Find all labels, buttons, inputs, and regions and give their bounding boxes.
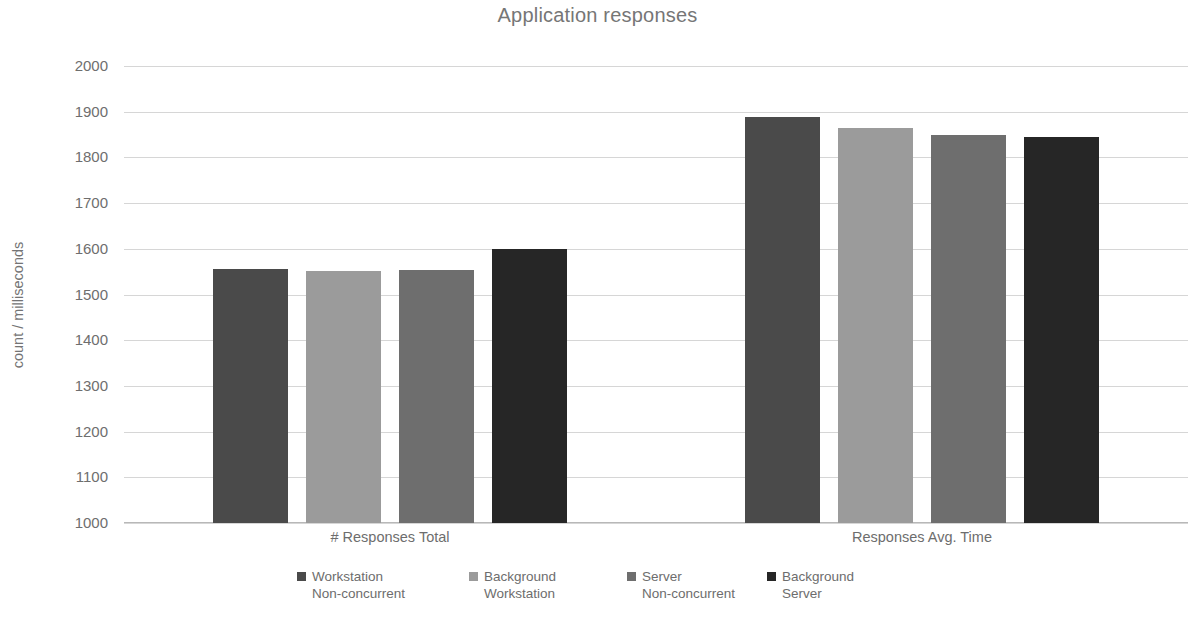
bar (1024, 137, 1099, 523)
legend-label: WorkstationNon-concurrent (312, 568, 405, 602)
y-axis-tick-label: 1300 (48, 377, 108, 394)
y-axis-tick-labels: 2000190018001700160015001400130012001100… (46, 66, 108, 523)
legend-item[interactable]: ServerNon-concurrent (627, 568, 735, 602)
legend-label-line-1: Server (642, 569, 682, 584)
bar (399, 270, 474, 523)
y-axis-tick-label: 1200 (48, 423, 108, 440)
bar (213, 269, 288, 523)
x-axis-category-label: # Responses Total (124, 529, 656, 545)
legend-item[interactable]: BackgroundServer (767, 568, 854, 602)
legend-label-line-2: Non-concurrent (312, 585, 405, 602)
chart-legend: WorkstationNon-concurrentBackgroundWorks… (297, 568, 917, 614)
x-axis-category-label: Responses Avg. Time (656, 529, 1188, 545)
legend-label-line-1: Background (484, 569, 556, 584)
gridline (124, 523, 1188, 524)
y-axis-tick-label: 1800 (48, 148, 108, 165)
bar (838, 128, 913, 523)
y-axis-tick-label: 1700 (48, 194, 108, 211)
chart-title: Application responses (0, 4, 1195, 27)
plot-area (124, 66, 1188, 523)
legend-color-swatch-icon (627, 572, 636, 581)
bar (306, 271, 381, 523)
legend-label-line-2: Server (782, 585, 854, 602)
y-axis-tick-label: 1500 (48, 286, 108, 303)
y-axis-tick-label: 1900 (48, 103, 108, 120)
bar (492, 249, 567, 523)
y-axis-tick-label: 1600 (48, 240, 108, 257)
gridline (124, 66, 1188, 67)
y-axis-tick-label: 1400 (48, 331, 108, 348)
gridline (124, 112, 1188, 113)
bar (931, 135, 1006, 523)
legend-label: ServerNon-concurrent (642, 568, 735, 602)
legend-label-line-1: Workstation (312, 569, 383, 584)
legend-label-line-2: Non-concurrent (642, 585, 735, 602)
y-axis-tick-label: 2000 (48, 57, 108, 74)
legend-color-swatch-icon (767, 572, 776, 581)
legend-label: BackgroundWorkstation (484, 568, 556, 602)
legend-color-swatch-icon (469, 572, 478, 581)
legend-label-line-2: Workstation (484, 585, 556, 602)
legend-item[interactable]: WorkstationNon-concurrent (297, 568, 405, 602)
legend-item[interactable]: BackgroundWorkstation (469, 568, 556, 602)
y-axis-tick-label: 1100 (48, 468, 108, 485)
bar (745, 117, 820, 523)
legend-label: BackgroundServer (782, 568, 854, 602)
y-axis-tick-label: 1000 (48, 514, 108, 531)
legend-color-swatch-icon (297, 572, 306, 581)
y-axis-title: count / milliseconds (10, 76, 32, 534)
legend-label-line-1: Background (782, 569, 854, 584)
